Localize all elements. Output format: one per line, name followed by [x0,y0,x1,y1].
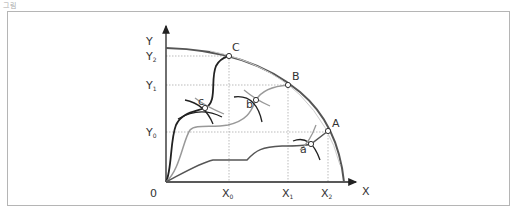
x-tick-0: X0 [222,188,233,200]
point-label-a: a [300,144,307,155]
mid-path [166,131,328,182]
gray-path [166,85,288,182]
production-possibility-diagram [0,0,515,219]
point-label-B: B [292,71,300,82]
dark-path [166,56,229,182]
x-tick-2: X2 [321,188,332,200]
point-label-C: C [232,42,240,53]
point-label-A: A [332,118,340,129]
guide-lines [166,56,328,182]
x-tick-1: X1 [282,188,293,200]
frontier-tangent [210,51,340,165]
point-label-b: b [246,99,253,110]
point-markers [202,53,330,146]
x-axis-label: X [362,186,370,197]
y-tick-0: Y0 [146,127,157,139]
y-tick-1: Y1 [146,80,157,92]
y-tick-2: Y2 [146,51,157,63]
y-axis-label: Y [146,36,153,47]
origin-label: 0 [150,188,157,199]
point-label-c: c [198,96,204,107]
